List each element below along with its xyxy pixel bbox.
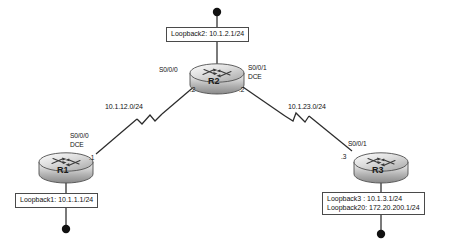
- router-label-r1: R1: [57, 165, 69, 175]
- subnet-label-right: 10.1.23.0/24: [288, 103, 326, 111]
- ip-suffix-r2-left: .2: [190, 86, 195, 94]
- network-diagram-canvas: Loopback2: 10.1.2.1/24 Loopback1: 10.1.1…: [0, 0, 453, 250]
- endpoint-dot-top: [213, 8, 221, 16]
- interface-label-r2-s000: S0/0/0: [159, 66, 177, 74]
- router-label-r2: R2: [208, 76, 220, 86]
- router-label-r3: R3: [372, 165, 384, 175]
- interface-label-r3-s001: S0/0/1: [348, 140, 366, 148]
- subnet-label-left: 10.1.12.0/24: [105, 103, 143, 111]
- endpoint-dot-r1: [62, 225, 70, 233]
- ip-suffix-r3: .3: [341, 153, 346, 161]
- endpoint-dot-r3: [377, 230, 385, 238]
- loopback1-label-box: Loopback1: 10.1.1.1/24: [15, 193, 98, 208]
- loopback20-label-line: Loopback20: 172.20.200.1/24: [327, 204, 420, 213]
- ip-suffix-r2-right: .2: [239, 86, 244, 94]
- loopback1-label-line: Loopback1: 10.1.1.1/24: [20, 196, 93, 205]
- interface-label-r2-s001: S0/0/1: [248, 64, 266, 72]
- link-r1-r2-line: [96, 85, 196, 154]
- loopback3-label-box: Loopback3 : 10.1.3.1/24 Loopback20: 172.…: [322, 192, 425, 215]
- interface-role-r1-s000: DCE: [70, 141, 84, 149]
- loopback3-label-line: Loopback3 : 10.1.3.1/24: [327, 195, 420, 204]
- ip-suffix-r1: .1: [89, 154, 94, 162]
- loopback2-label-line: Loopback2: 10.1.2.1/24: [171, 30, 244, 39]
- interface-label-r1-s000: S0/0/0: [70, 132, 88, 140]
- link-r2-r3-line: [240, 85, 352, 151]
- interface-role-r2-s001: DCE: [248, 73, 262, 81]
- loopback2-label-box: Loopback2: 10.1.2.1/24: [166, 27, 249, 42]
